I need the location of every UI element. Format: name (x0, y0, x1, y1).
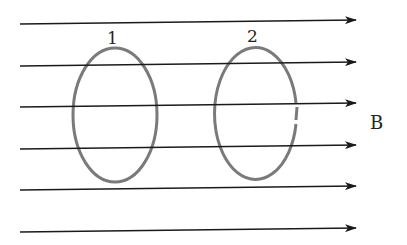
magnetic-field-diagram: 1 2 B (0, 0, 407, 245)
field-line-arrow-6 (20, 228, 356, 232)
field-line-arrow-3 (20, 103, 356, 107)
loop-1-label: 1 (107, 28, 118, 48)
loop-2 (215, 47, 296, 179)
field-line-arrow-1 (20, 20, 356, 24)
field-line-arrow-2 (20, 62, 356, 66)
loop-2-label: 2 (247, 26, 258, 46)
loop-1 (73, 48, 157, 182)
field-label-B: B (370, 112, 383, 133)
field-lines (20, 20, 356, 232)
field-line-arrow-4 (20, 145, 356, 149)
field-line-arrow-5 (20, 186, 356, 190)
loop-2-segment (296, 107, 297, 120)
